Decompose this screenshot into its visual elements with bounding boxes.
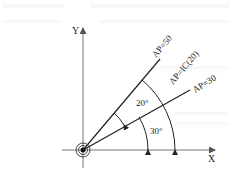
x-axis-label: X [208, 153, 216, 164]
ray-label-ap30: AP=30 [191, 72, 218, 94]
origin-circle-icon [76, 143, 90, 157]
arc-20deg [114, 113, 124, 125]
angle-label-20: 20° [136, 98, 149, 108]
polar-angle-diagram: Y X AP=50 AP=IC(20) AP=30 20° 30° [0, 0, 235, 180]
ray-label-ap50: AP=50 [150, 33, 174, 59]
y-axis-label: Y [72, 25, 79, 36]
arc-30deg [139, 117, 148, 150]
background-bleed-text [2, 4, 230, 125]
angle-label-30: 30° [150, 126, 163, 136]
